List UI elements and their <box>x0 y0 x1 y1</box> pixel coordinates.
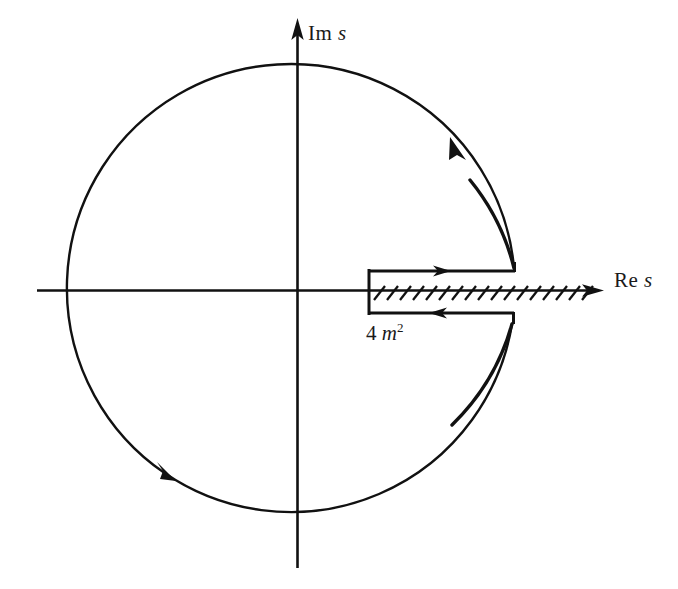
real-axis-label-variable: s <box>644 268 653 292</box>
arc-arrow-upper-right <box>449 137 466 160</box>
imaginary-axis-label-prefix: Im <box>308 21 332 45</box>
threshold-label: 4 m2 <box>366 320 403 346</box>
imaginary-axis-label: Im s <box>308 21 347 46</box>
complex-plane-figure: Im s Re s 4 m2 <box>0 0 678 589</box>
imaginary-axis-label-variable: s <box>338 21 347 45</box>
keyhole-contour-group <box>368 262 515 324</box>
branch-cut-hatching <box>374 286 593 300</box>
arc-arrow-lower-left <box>157 462 176 481</box>
circle-arc-thick-lower-right <box>452 324 512 425</box>
contour-diagram-svg <box>0 0 678 589</box>
real-axis-label: Re s <box>614 268 653 293</box>
threshold-exponent: 2 <box>397 320 404 335</box>
threshold-coefficient: 4 <box>366 321 377 345</box>
axes-group <box>37 18 604 568</box>
circle-arc-thick-upper-right <box>470 180 514 268</box>
real-axis-label-prefix: Re <box>614 268 638 292</box>
threshold-variable: m <box>382 321 397 345</box>
